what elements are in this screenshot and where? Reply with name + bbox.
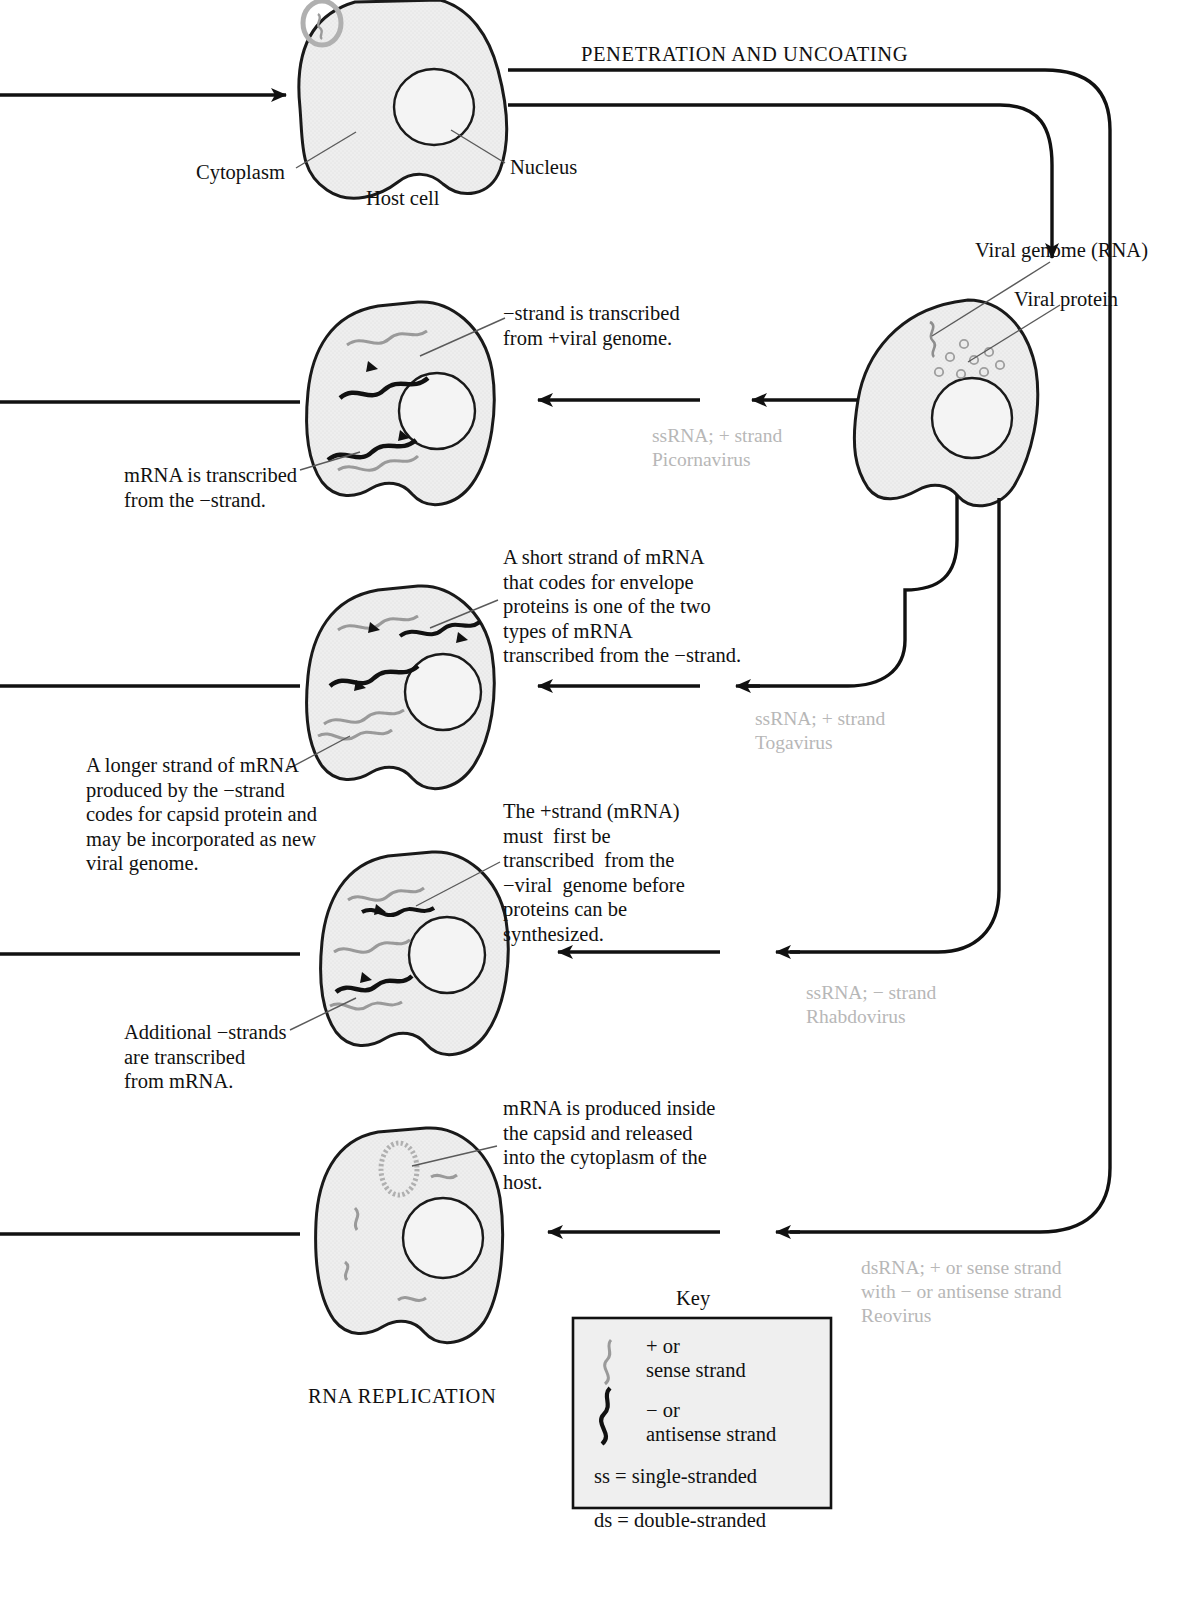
virus-label-reovirus-3: Reovirus <box>861 1304 931 1328</box>
label-viral-protein: Viral protein <box>1014 287 1118 311</box>
key-entry-1-line1: − or <box>646 1398 680 1422</box>
annotation-picornavirus-left: mRNA is transcribed from the −strand. <box>124 463 297 512</box>
cell-rhabdovirus <box>290 852 508 1055</box>
cell-picornavirus <box>300 302 505 505</box>
key-entry-3-line1: ds = double-stranded <box>594 1508 766 1532</box>
virus-label-togavirus-2: Togavirus <box>755 731 833 755</box>
label-nucleus: Nucleus <box>510 155 577 179</box>
key-title: Key <box>676 1286 710 1310</box>
annotation-rhabdovirus-right: The +strand (mRNA) must first be transcr… <box>503 799 685 947</box>
annotation-togavirus-right: A short strand of mRNA that codes for en… <box>503 545 741 668</box>
annotation-reovirus-right: mRNA is produced inside the capsid and r… <box>503 1096 715 1194</box>
key-entry-0-line1: + or <box>646 1334 680 1358</box>
virus-label-picornavirus-2: Picornavirus <box>652 448 751 472</box>
label-viral-genome: Viral genome (RNA) <box>975 238 1148 262</box>
label-cytoplasm: Cytoplasm <box>196 160 285 184</box>
cell-reovirus <box>316 1128 503 1343</box>
section-title-penetration: PENETRATION AND UNCOATING <box>581 42 908 66</box>
diagram-canvas: PENETRATION AND UNCOATING Cytoplasm Nucl… <box>0 0 1198 1612</box>
label-host-cell: Host cell <box>366 186 439 210</box>
annotation-rhabdovirus-left: Additional −strands are transcribed from… <box>124 1020 286 1094</box>
key-entry-2-line1: ss = single-stranded <box>594 1464 757 1488</box>
key-entry-0-line2: sense strand <box>646 1358 746 1382</box>
annotation-picornavirus-right: −strand is transcribed from +viral genom… <box>503 301 680 350</box>
virus-label-reovirus-1: dsRNA; + or sense strand <box>861 1256 1062 1280</box>
cell-togavirus <box>286 586 498 789</box>
host-cell-group <box>296 0 507 198</box>
virus-label-rhabdovirus-1: ssRNA; − strand <box>806 981 936 1005</box>
virus-label-rhabdovirus-2: Rhabdovirus <box>806 1005 906 1029</box>
section-title-rna-replication: RNA REPLICATION <box>308 1384 496 1408</box>
virus-label-reovirus-2: with − or antisense strand <box>861 1280 1062 1304</box>
virus-label-picornavirus-1: ssRNA; + strand <box>652 424 782 448</box>
key-entry-1-line2: antisense strand <box>646 1422 776 1446</box>
virus-label-togavirus-1: ssRNA; + strand <box>755 707 885 731</box>
annotation-togavirus-left: A longer strand of mRNA produced by the … <box>86 753 317 876</box>
